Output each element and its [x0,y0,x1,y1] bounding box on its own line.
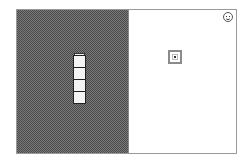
target-inner [172,54,178,60]
left-panel-dithered[interactable] [17,10,128,153]
block-stack[interactable] [73,53,86,104]
smiley-mouth [226,17,230,20]
smiley-face-icon[interactable] [223,12,233,22]
target-dot [174,56,176,58]
game-frame [16,9,237,154]
stack-cell[interactable] [73,91,86,104]
target-marker[interactable] [168,50,182,64]
panel-divider [128,10,129,153]
